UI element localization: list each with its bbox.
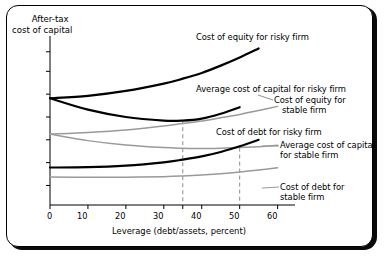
xtick-label-20: 20 <box>115 211 125 221</box>
curve-cost-of-debt-for-risky-firm <box>50 140 259 168</box>
annotation-cost-debt-stable-line2: stable firm <box>280 192 324 203</box>
annotation-cost-equity-stable-line2: stable firm <box>282 105 326 116</box>
x-axis-title: Leverage (debt/assets, percent) <box>112 226 246 236</box>
annotation-avg-cost-risky: Average cost of capital for risky firm <box>196 84 346 95</box>
annotation-cost-debt-risky: Cost of debt for risky firm <box>216 127 322 138</box>
curve-cost-of-debt-for-stable-firm <box>50 168 278 178</box>
xtick-label-0: 0 <box>47 211 52 221</box>
annotation-avg-cost-stable-line1: Average cost of capital <box>280 140 375 151</box>
curve-average-cost-of-capital-for-risky-firm <box>50 98 240 121</box>
xtick-label-50: 50 <box>229 211 239 221</box>
xtick-label-40: 40 <box>191 211 201 221</box>
figure-container: After-tax cost of capital Cost of equity… <box>0 0 384 259</box>
leader-cost-equity-stable <box>258 95 273 100</box>
leader-cost-debt-stable <box>262 187 279 188</box>
annotation-avg-cost-stable-line2: for stable firm <box>280 150 338 161</box>
xtick-label-30: 30 <box>153 211 163 221</box>
xtick-label-60: 60 <box>267 211 277 221</box>
annotation-cost-equity-stable-line1: Cost of equity for <box>274 95 346 106</box>
annotation-cost-debt-stable-line1: Cost of debt for <box>280 182 344 193</box>
annotation-cost-equity-risky: Cost of equity for risky firm <box>196 32 309 43</box>
xtick-label-10: 10 <box>77 211 87 221</box>
